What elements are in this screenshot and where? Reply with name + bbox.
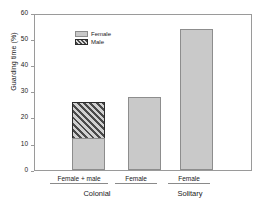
legend-item-male: Male (75, 39, 111, 45)
bar-segment-female (180, 29, 213, 170)
y-tick-40: 40 (0, 66, 34, 67)
bar-segment-female (128, 97, 161, 170)
bar-segment-male (72, 102, 105, 139)
legend-label-female: Female (91, 31, 111, 37)
y-tick-50: 50 (0, 40, 34, 41)
y-tick-label-60: 60 (21, 9, 28, 16)
y-tick-label-20: 20 (21, 113, 28, 120)
x-category-label-colonial-female: Female (115, 175, 157, 184)
y-tick-label-50: 50 (21, 35, 28, 42)
y-tick-mark-0 (31, 171, 34, 172)
y-axis-title: Guarding time (%) (10, 2, 17, 122)
bar-solitary-female (180, 29, 213, 170)
bar-colonial-female (128, 97, 161, 170)
plot-area: Female Male (34, 14, 252, 171)
bar-segment-female (72, 138, 105, 170)
y-tick-0: 0 (0, 171, 34, 172)
legend-swatch-male-icon (75, 39, 88, 45)
legend-swatch-female-icon (75, 31, 88, 37)
y-tick-label-40: 40 (21, 61, 28, 68)
y-tick-20: 20 (0, 118, 34, 119)
bar-colonial-female-plus-male (72, 102, 105, 170)
x-group-label-colonial: Colonial (62, 189, 132, 198)
legend: Female Male (75, 31, 111, 45)
x-category-label-female-plus-male: Female + male (50, 175, 108, 184)
y-tick-label-10: 10 (21, 140, 28, 147)
bar-chart-figure: Guarding time (%) 60 50 40 30 20 10 0 Fe… (0, 0, 262, 206)
y-tick-30: 30 (0, 92, 34, 93)
legend-item-female: Female (75, 31, 111, 37)
y-tick-60: 60 (0, 14, 34, 15)
x-group-label-solitary: Solitary (165, 189, 215, 198)
legend-label-male: Male (91, 39, 104, 45)
y-tick-label-0: 0 (24, 166, 28, 173)
y-tick-10: 10 (0, 145, 34, 146)
y-tick-label-30: 30 (21, 87, 28, 94)
x-category-label-solitary-female: Female (168, 175, 210, 184)
